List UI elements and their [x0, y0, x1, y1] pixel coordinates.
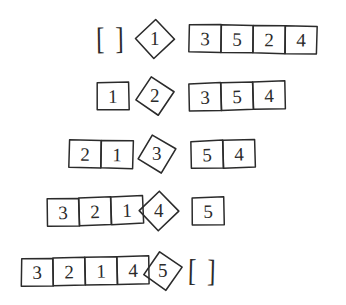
list-cell: 1 [84, 255, 119, 286]
empty-list-brackets: [ ] [96, 26, 124, 51]
pivot-value: 3 [152, 143, 162, 165]
pivot-value: 1 [150, 28, 160, 50]
pivot-value: 5 [158, 260, 168, 282]
list-cell: 3 [188, 23, 222, 53]
cell-list: 1 [96, 80, 130, 111]
pivot-diamond: 1 [133, 17, 176, 60]
row-left-group: 3 2 1 4 [20, 242, 150, 299]
cell-value: 4 [234, 143, 244, 162]
bracket-open: [ [188, 255, 197, 286]
list-cell: 1 [100, 138, 134, 168]
list-cell: 1 [96, 80, 130, 111]
row-right-group: [ ] [188, 242, 216, 299]
list-cell: 5 [220, 80, 255, 111]
cell-value: 1 [96, 261, 106, 280]
row-right-group: 5 4 [190, 125, 256, 182]
cell-value: 3 [200, 87, 210, 106]
cell-value: 1 [108, 86, 118, 105]
cell-value: 4 [296, 30, 306, 49]
figure-canvas: [ ] 1 3 5 [0, 0, 346, 305]
cell-list: 3 2 1 4 [20, 254, 151, 287]
row-left-group: 1 [96, 67, 130, 124]
trace-row: 3 2 1 4 5 [0, 242, 346, 299]
cell-list: 3 5 2 4 [188, 23, 318, 55]
row-pivot-group: 3 [136, 125, 178, 182]
row-pivot-group: 2 [134, 67, 176, 124]
row-left-group: 2 1 [68, 125, 134, 182]
cell-value: 5 [232, 29, 242, 48]
cell-value: 3 [58, 202, 68, 221]
row-right-group: 3 5 2 4 [188, 10, 318, 67]
list-cell: 4 [284, 24, 318, 54]
cell-value: 5 [203, 201, 213, 220]
pivot-diamond: 4 [138, 189, 181, 232]
list-cell: 4 [252, 79, 287, 110]
pivot-diamond: 5 [139, 246, 188, 295]
row-pivot-group: 1 [134, 10, 176, 67]
list-cell: 2 [77, 195, 112, 226]
cell-value: 4 [128, 260, 138, 279]
list-cell: 3 [20, 256, 55, 287]
list-cell: 2 [252, 23, 286, 53]
cell-value: 3 [32, 262, 42, 281]
cell-value: 2 [80, 144, 90, 163]
list-cell: 2 [52, 255, 87, 286]
list-cell: 5 [190, 138, 225, 169]
bracket-close: ] [115, 23, 124, 54]
trace-row: 1 2 3 5 [0, 67, 346, 124]
cell-list: 3 5 4 [188, 79, 287, 112]
cell-value: 2 [90, 201, 100, 220]
cell-list: 5 4 [190, 138, 257, 170]
row-pivot-group: 4 [138, 182, 180, 239]
list-cell: 5 [191, 195, 226, 226]
empty-list-brackets: [ ] [188, 258, 216, 284]
list-cell: 3 [188, 81, 223, 112]
cell-value: 1 [122, 200, 132, 219]
cell-value: 1 [112, 144, 122, 163]
cell-value: 2 [64, 261, 74, 280]
row-pivot-group: 5 [142, 242, 184, 299]
list-cell: 5 [220, 23, 254, 53]
pivot-diamond: 3 [132, 128, 183, 179]
cell-value: 5 [202, 144, 212, 163]
row-left-group: [ ] [96, 10, 124, 67]
list-cell: 2 [68, 138, 102, 168]
cell-list: 3 2 1 [46, 194, 145, 227]
cell-list: 2 1 [68, 138, 134, 169]
pivot-value: 4 [154, 200, 164, 222]
row-right-group: 5 [191, 182, 225, 239]
cell-list: 5 [191, 195, 226, 226]
row-right-group: 3 5 4 [188, 67, 286, 124]
row-left-group: 3 2 1 [46, 182, 144, 239]
list-cell: 4 [222, 138, 257, 169]
cell-value: 3 [200, 28, 210, 47]
bracket-open: [ [96, 23, 105, 54]
cell-value: 4 [264, 85, 274, 104]
pivot-diamond: 2 [130, 71, 179, 120]
pivot-value: 2 [150, 85, 160, 107]
cell-value: 5 [232, 86, 242, 105]
trace-row: [ ] 1 3 5 [0, 10, 346, 67]
list-cell: 3 [46, 196, 81, 227]
trace-row: 3 2 1 4 [0, 182, 346, 239]
trace-row: 2 1 3 5 [0, 125, 346, 182]
cell-value: 2 [264, 29, 274, 48]
bracket-close: ] [207, 255, 216, 286]
